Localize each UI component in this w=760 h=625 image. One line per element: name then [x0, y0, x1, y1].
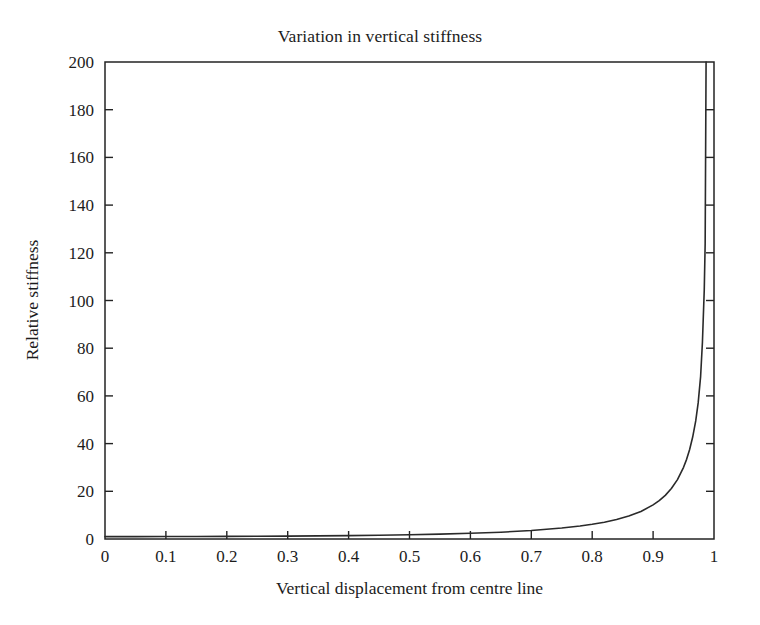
y-axis-title: Relative stiffness: [22, 239, 42, 360]
y-tick-label: 140: [69, 196, 95, 215]
x-tick-label: 0.3: [277, 547, 298, 566]
y-axis-tick-marks: [105, 110, 714, 492]
plot-canvas: 00.10.20.30.40.50.60.70.80.91 0204060801…: [0, 0, 760, 625]
y-tick-label: 80: [77, 339, 94, 358]
y-tick-label: 100: [69, 292, 95, 311]
y-axis-tick-labels: 020406080100120140160180200: [69, 53, 95, 549]
y-tick-label: 180: [69, 101, 95, 120]
x-tick-label: 0: [101, 547, 110, 566]
x-tick-label: 0.7: [521, 547, 543, 566]
data-series-line: [105, 62, 706, 537]
x-tick-label: 0.6: [460, 547, 481, 566]
y-tick-label: 120: [69, 244, 95, 263]
chart-figure: Variation in vertical stiffness 00.10.20…: [0, 0, 760, 625]
x-tick-label: 0.2: [216, 547, 237, 566]
y-tick-label: 160: [69, 148, 95, 167]
y-tick-label: 60: [77, 387, 94, 406]
x-tick-label: 0.1: [155, 547, 176, 566]
x-tick-label: 0.9: [642, 547, 663, 566]
x-tick-label: 1: [710, 547, 719, 566]
y-tick-label: 40: [77, 435, 94, 454]
y-tick-label: 200: [69, 53, 95, 72]
y-tick-label: 20: [77, 482, 94, 501]
x-tick-label: 0.8: [582, 547, 603, 566]
x-tick-label: 0.4: [338, 547, 360, 566]
x-tick-label: 0.5: [399, 547, 420, 566]
x-axis-tick-labels: 00.10.20.30.40.50.60.70.80.91: [101, 547, 719, 566]
y-tick-label: 0: [86, 530, 95, 549]
plot-frame: [105, 62, 714, 539]
x-axis-title: Vertical displacement from centre line: [276, 578, 543, 598]
